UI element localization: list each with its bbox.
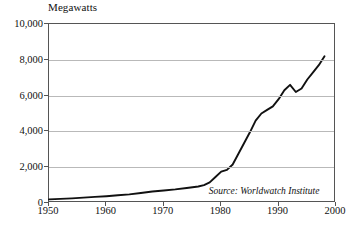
x-axis-tick-label: 1950	[38, 205, 59, 216]
x-axis-tick-mark	[48, 202, 49, 206]
y-axis-tick-mark	[44, 95, 48, 96]
y-axis-tick-mark	[44, 59, 48, 60]
x-axis-tick-label: 1970	[152, 205, 173, 216]
y-axis-unit-label: Megawatts	[48, 1, 97, 13]
x-axis-tick-label: 1960	[95, 205, 116, 216]
x-axis-tick-label: 1990	[267, 205, 288, 216]
y-axis	[0, 23, 44, 202]
gridline-horizontal	[49, 60, 334, 61]
y-axis-tick-label: 6,000	[19, 89, 43, 100]
gridline-horizontal	[49, 96, 334, 97]
y-axis-tick-label: 2,000	[19, 161, 43, 172]
y-axis-tick-mark	[44, 23, 48, 24]
y-axis-tick-mark	[44, 130, 48, 131]
plot-area	[48, 23, 335, 202]
x-axis-tick-mark	[278, 202, 279, 206]
y-axis-tick-label: 8,000	[19, 53, 43, 64]
x-axis-tick-mark	[220, 202, 221, 206]
y-axis-tick-label: 10,000	[14, 18, 43, 29]
gridline-horizontal	[49, 167, 334, 168]
x-axis-tick-label: 2000	[325, 205, 346, 216]
x-axis-tick-mark	[105, 202, 106, 206]
series-line-installed-capacity	[49, 24, 336, 203]
source-annotation: Source: Worldwatch Institute	[209, 186, 320, 196]
chart-figure: Megawatts Source: Worldwatch Institute 1…	[0, 0, 359, 237]
x-axis-tick-mark	[335, 202, 336, 206]
gridline-horizontal	[49, 131, 334, 132]
y-axis-tick-label: 4,000	[19, 125, 43, 136]
y-axis-tick-mark	[44, 166, 48, 167]
x-axis-tick-label: 1980	[210, 205, 231, 216]
x-axis-tick-mark	[163, 202, 164, 206]
